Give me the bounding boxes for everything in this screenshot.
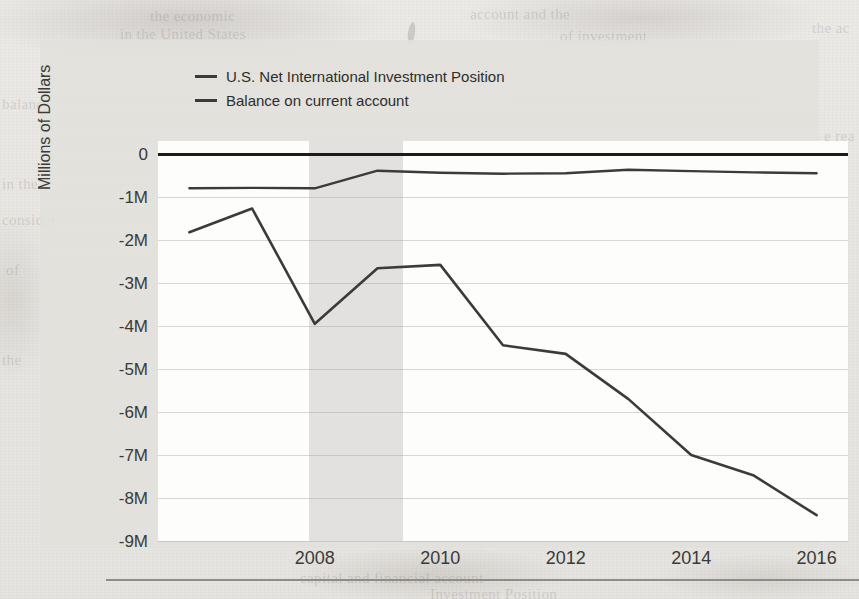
legend-item-current-account[interactable]: Balance on current account — [195, 88, 504, 112]
x-tick-label: 2008 — [295, 548, 335, 569]
plot-area — [158, 141, 848, 541]
y-tick-label: -2M — [82, 232, 148, 249]
y-tick-label: -9M — [82, 533, 148, 550]
gridline — [158, 541, 848, 542]
y-tick-label: -7M — [82, 447, 148, 464]
legend-item-niip[interactable]: U.S. Net International Investment Positi… — [195, 64, 504, 88]
y-tick-label: -3M — [82, 275, 148, 292]
x-tick-label: 2010 — [420, 548, 460, 569]
y-tick-label: -1M — [82, 189, 148, 206]
chart-legend: U.S. Net International Investment Positi… — [195, 64, 504, 112]
series-lines — [158, 141, 848, 541]
x-tick-label: 2016 — [797, 548, 837, 569]
y-tick-label: 0 — [82, 146, 148, 163]
line-current-account — [189, 170, 816, 189]
y-tick-label: -8M — [82, 490, 148, 507]
legend-swatch-niip — [195, 75, 217, 78]
legend-label-current-account: Balance on current account — [226, 92, 409, 109]
x-tick-label: 2014 — [671, 548, 711, 569]
legend-label-niip: U.S. Net International Investment Positi… — [226, 68, 504, 85]
line-niip — [189, 209, 816, 516]
y-tick-label: -5M — [82, 361, 148, 378]
x-tick-label: 2012 — [546, 548, 586, 569]
y-tick-label: -4M — [82, 318, 148, 335]
y-tick-label: -6M — [82, 404, 148, 421]
x-axis-line — [106, 579, 859, 581]
chart-figure: U.S. Net International Investment Positi… — [40, 40, 819, 548]
y-axis-title: Millions of Dollars — [36, 65, 54, 190]
legend-swatch-current-account — [195, 99, 217, 102]
